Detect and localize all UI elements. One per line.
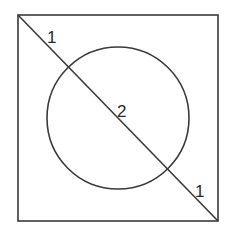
label-middle-segment: 2 bbox=[117, 102, 126, 121]
label-top-left-segment: 1 bbox=[47, 28, 56, 47]
label-bottom-right-segment: 1 bbox=[195, 182, 204, 201]
geometry-diagram: 1 2 1 bbox=[0, 0, 231, 233]
